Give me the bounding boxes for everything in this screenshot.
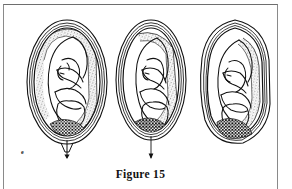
panel-uterus-narrowing-oval	[107, 4, 199, 164]
panel-2-drawing	[107, 4, 199, 164]
figure-caption: Figure 15	[3, 168, 278, 180]
figure-plate: e Figure 15	[0, 0, 292, 189]
panel-uterus-tilted-irregular	[193, 4, 281, 164]
panel-uterus-upright-oval	[17, 4, 117, 164]
panel-1-drawing	[17, 4, 117, 164]
panel-3-drawing	[193, 4, 281, 164]
panel-letter-label: e	[21, 149, 24, 155]
illustration-area: e	[3, 4, 278, 164]
